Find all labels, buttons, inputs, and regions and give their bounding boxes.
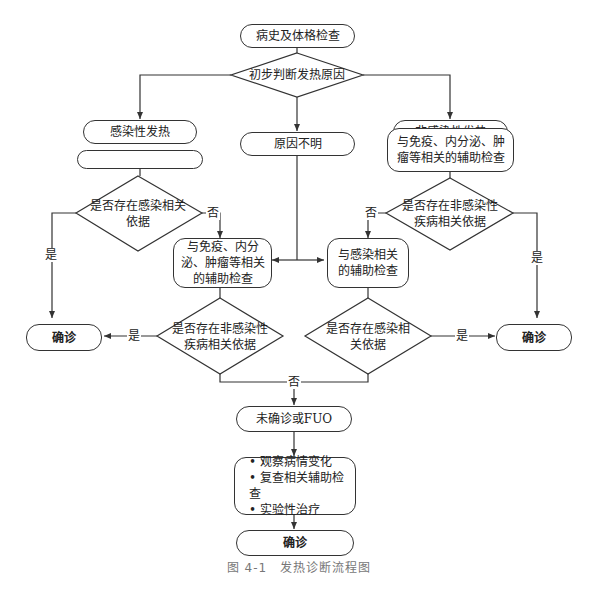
infectious-fever-node: 感染性发热	[83, 120, 197, 144]
actions-list: 观察病情变化 复查相关辅助检查 实验性治疗	[249, 454, 355, 518]
yes-label-cross-right: 是	[455, 329, 469, 343]
confirm-right-node: 确诊	[496, 324, 572, 351]
no-label-left: 否	[206, 206, 220, 220]
infection-evidence-decision: 是否存在感染相关依据	[88, 197, 188, 231]
action-item: 复查相关辅助检查	[249, 470, 355, 502]
noninfection-evidence-decision: 是否存在非感染性疾病相关依据	[400, 197, 500, 231]
cross-infection-exam-box: 与感染相关的辅助检查	[327, 238, 409, 288]
yes-label-cross-left: 是	[127, 329, 141, 343]
initial-decision-diamond: 初步判断发热原因	[231, 65, 363, 85]
cross-infection-decision: 是否存在感染相关依据	[322, 320, 414, 354]
yes-label-left: 是	[44, 248, 58, 262]
figure-caption: 图 4-1 发热诊断流程图	[0, 558, 598, 575]
action-item: 观察病情变化	[249, 454, 355, 470]
actions-box: 观察病情变化 复查相关辅助检查 实验性治疗	[234, 457, 356, 515]
cross-noninfection-decision: 是否存在非感染性疾病相关依据	[172, 320, 268, 354]
history-exam-node: 病史及体格检查	[240, 24, 355, 48]
fever-diagnosis-flowchart: 病史及体格检查 初步判断发热原因 感染性发热 原因不明 非感染性发热 与免疫、内…	[0, 0, 598, 597]
infection-exam-box-placeholder	[77, 150, 203, 169]
confirm-left-node: 确诊	[26, 324, 102, 351]
unconfirmed-fuo-node: 未确诊或FUO	[236, 406, 352, 432]
no-label-merge: 否	[287, 375, 301, 389]
confirm-final-node: 确诊	[236, 530, 354, 556]
noninfection-exam-box: 与免疫、内分泌、肿瘤等相关的辅助检查	[387, 128, 514, 172]
cross-noninfection-exam-box: 与免疫、内分泌、肿瘤等相关的辅助检查	[173, 238, 272, 288]
action-item: 实验性治疗	[249, 502, 355, 518]
unknown-cause-node: 原因不明	[240, 132, 355, 156]
yes-label-right: 是	[530, 251, 544, 265]
no-label-right: 否	[364, 206, 378, 220]
